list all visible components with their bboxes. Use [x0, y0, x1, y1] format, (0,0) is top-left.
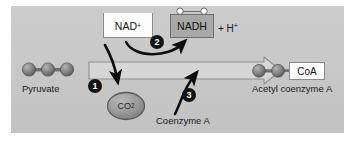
co2-label: CO2: [108, 95, 144, 117]
proton-text: + H: [218, 23, 234, 34]
acetyl-coa-label: Acetyl coenzyme A: [252, 84, 332, 94]
pyruvate-oxidation-figure: NAD+ NADH + H+ CoA CO2 Pyruvate Acetyl c…: [0, 0, 355, 145]
pyruvate-molecule: [22, 63, 73, 76]
nadh-label: NADH: [177, 20, 207, 32]
co2-text: CO: [117, 101, 131, 111]
coa-tag-label: CoA: [297, 66, 316, 77]
step-badge-1: 1: [88, 79, 102, 93]
nadh-box: NADH: [170, 14, 214, 38]
step-badge-3: 3: [182, 88, 196, 102]
proton-superscript: +: [234, 22, 238, 29]
proton-label: + H+: [218, 24, 238, 34]
nad-plus-box: NAD+: [103, 13, 153, 38]
coenzyme-a-label: Coenzyme A: [156, 116, 210, 126]
coa-tag: CoA: [289, 62, 325, 80]
pyruvate-label: Pyruvate: [22, 84, 60, 94]
main-reaction-arrow: [89, 57, 281, 84]
nad-plus-label: NAD: [115, 20, 137, 32]
step-badge-2: 2: [150, 35, 164, 49]
